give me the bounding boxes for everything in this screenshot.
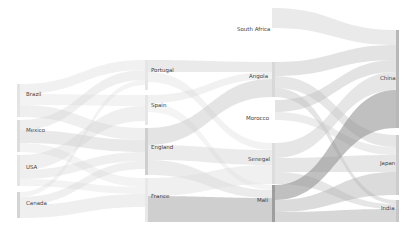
- node-label-spain: Spain: [151, 102, 166, 109]
- flow-south-africa-to-china[interactable]: [272, 8, 396, 45]
- node-bar-angola[interactable]: [272, 62, 275, 97]
- flow-links: [20, 8, 396, 222]
- node-bar-india[interactable]: [396, 200, 399, 222]
- node-bar-canada[interactable]: [17, 192, 20, 218]
- node-label-senegal: Senegal: [248, 156, 270, 163]
- node-label-china: China: [380, 75, 396, 82]
- node-label-india: India: [381, 205, 395, 212]
- node-label-england: England: [151, 144, 173, 151]
- node-label-morocco: Morocco: [246, 115, 269, 122]
- node-bar-brazil[interactable]: [17, 84, 20, 117]
- node-label-france: France: [151, 193, 169, 200]
- node-bar-usa[interactable]: [17, 155, 20, 186]
- node-label-portugal: Portugal: [151, 67, 174, 74]
- node-bar-mali[interactable]: [272, 185, 275, 222]
- node-label-usa: USA: [26, 164, 37, 171]
- sankey-diagram: BrazilMexicoUSACanadaPortugalSpainEnglan…: [0, 0, 417, 234]
- node-bar-england[interactable]: [145, 128, 148, 175]
- sankey-canvas: [0, 0, 417, 234]
- node-bar-japan[interactable]: [396, 135, 399, 195]
- node-label-canada: Canada: [26, 200, 47, 207]
- node-label-mexico: Mexico: [26, 127, 45, 134]
- node-bar-spain[interactable]: [145, 95, 148, 125]
- node-bar-china[interactable]: [396, 30, 399, 128]
- node-label-mali: Mali: [257, 197, 268, 204]
- node-label-brazil: Brazil: [26, 91, 41, 98]
- node-bar-mexico[interactable]: [17, 120, 20, 152]
- node-bar-france[interactable]: [145, 178, 148, 222]
- node-bar-senegal[interactable]: [272, 143, 275, 184]
- node-label-angola: Angola: [249, 73, 268, 80]
- node-label-south-africa: South Africa: [237, 26, 270, 33]
- node-bar-portugal[interactable]: [145, 60, 148, 90]
- node-label-japan: Japan: [380, 160, 395, 167]
